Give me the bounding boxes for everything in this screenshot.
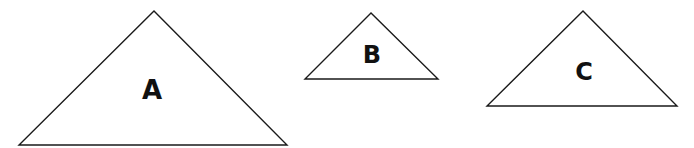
triangle-b-label: B xyxy=(363,43,381,67)
triangle-a-label: A xyxy=(142,77,162,103)
triangle-c-label: C xyxy=(575,60,593,84)
